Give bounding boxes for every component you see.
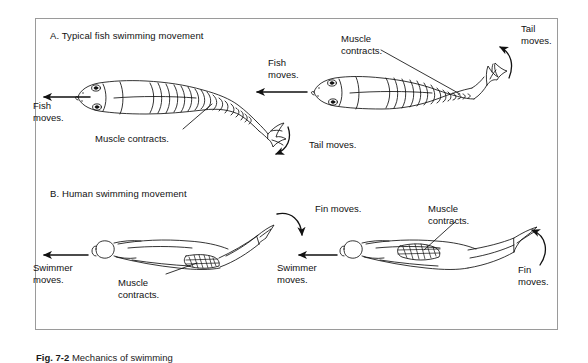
figure-caption: Fig. 7-2 Mechanics of swimming	[36, 352, 173, 363]
label-muscle-contracts-right-b: Muscle contracts.	[428, 203, 469, 226]
label-fish-moves-left: Fish moves.	[33, 100, 64, 123]
figure-root: A. Typical fish swimming movement B. Hum…	[0, 0, 588, 363]
label-tail-moves-lower: Tail moves.	[309, 139, 357, 151]
panel-b-title: B. Human swimming movement	[50, 188, 187, 199]
label-swimmer-moves-left: Swimmer moves.	[33, 262, 73, 285]
panel-a-title: A. Typical fish swimming movement	[50, 30, 204, 41]
label-fish-moves-middle: Fish moves.	[268, 57, 299, 80]
label-muscle-contracts-left-b: Muscle contracts.	[118, 277, 159, 300]
label-muscle-contracts-right: Muscle contracts.	[341, 33, 382, 56]
caption-label: Fig. 7-2	[36, 352, 72, 363]
label-muscle-contracts-left: Muscle contracts.	[95, 133, 169, 145]
label-swimmer-moves-middle: Swimmer moves.	[277, 262, 317, 285]
caption-text: Mechanics of swimming	[72, 352, 173, 363]
label-tail-moves-upper: Tail moves.	[521, 23, 552, 46]
label-fin-moves-middle: Fin moves.	[315, 203, 361, 215]
label-fin-moves-right: Fin moves.	[518, 264, 549, 287]
